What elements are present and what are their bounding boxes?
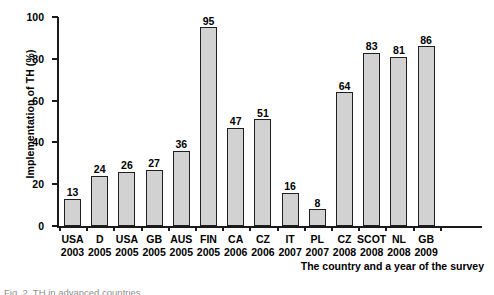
x-tick-mark	[59, 226, 61, 231]
x-tick-mark	[249, 226, 251, 231]
bar-value-label: 86	[420, 35, 432, 46]
x-tick-mark	[168, 226, 170, 231]
bar: 8	[309, 209, 326, 226]
x-tick-country: FIN	[200, 233, 217, 245]
x-tick-country: GB	[146, 233, 162, 245]
x-tick-mark	[331, 226, 333, 231]
x-tick-label: GB2009	[406, 233, 446, 258]
bar: 16	[282, 193, 299, 226]
bar-value-label: 27	[148, 158, 160, 169]
y-tick-mark: 60	[52, 100, 58, 102]
x-tick-country: CZ	[338, 233, 352, 245]
bar-chart-figure: Implementation of TH (%) 020406080100 13…	[0, 0, 494, 295]
x-tick-mark	[222, 226, 224, 231]
bar: 27	[146, 170, 163, 226]
bar: 47	[227, 128, 244, 226]
x-tick-mark	[113, 226, 115, 231]
bar-value-label: 24	[94, 164, 106, 175]
bar: 83	[363, 53, 380, 226]
bar-value-label: 81	[393, 45, 405, 56]
y-tick-mark: 0	[52, 225, 58, 227]
y-tick-label: 80	[32, 53, 44, 65]
x-tick-mark	[440, 226, 442, 231]
bar-value-label: 95	[203, 16, 215, 27]
bar: 86	[418, 46, 435, 226]
bar-value-label: 8	[314, 198, 320, 209]
x-tick-year: 2009	[406, 246, 446, 259]
bar: 13	[64, 199, 81, 226]
bar: 81	[390, 57, 407, 226]
y-tick-mark: 40	[52, 141, 58, 143]
bar-value-label: 13	[67, 187, 79, 198]
x-tick-mark	[195, 226, 197, 231]
x-tick-mark	[413, 226, 415, 231]
y-tick-label: 100	[26, 11, 44, 23]
x-tick-country: PL	[311, 233, 324, 245]
bar: 64	[336, 92, 353, 226]
plot-area: 020406080100 132426273695475116864838186	[57, 17, 482, 228]
x-tick-mark	[358, 226, 360, 231]
y-tick-mark: 100	[52, 16, 58, 18]
bar-value-label: 47	[230, 116, 242, 127]
bar-value-label: 64	[339, 81, 351, 92]
x-tick-country: GB	[418, 233, 434, 245]
y-tick-mark: 20	[52, 183, 58, 185]
x-tick-country: D	[96, 233, 104, 245]
bar-value-label: 36	[175, 139, 187, 150]
y-tick-mark: 80	[52, 58, 58, 60]
x-tick-country: CZ	[256, 233, 270, 245]
x-axis-line	[57, 226, 482, 228]
x-tick-country: IT	[285, 233, 294, 245]
bar-value-label: 83	[366, 41, 378, 52]
bar-value-label: 26	[121, 160, 133, 171]
bar-value-label: 16	[284, 181, 296, 192]
y-tick-label: 0	[38, 220, 44, 232]
bar-value-label: 51	[257, 108, 269, 119]
x-axis-title: The country and a year of the survey	[301, 260, 484, 272]
y-tick-label: 40	[32, 136, 44, 148]
y-tick-label: 20	[32, 178, 44, 190]
bar: 26	[118, 172, 135, 226]
x-tick-mark	[141, 226, 143, 231]
y-tick-label: 60	[32, 95, 44, 107]
x-tick-mark	[86, 226, 88, 231]
x-tick-mark	[385, 226, 387, 231]
x-tick-mark	[277, 226, 279, 231]
y-axis-line	[57, 17, 59, 228]
figure-caption: Fig. 2. TH in advanced countries	[4, 287, 141, 295]
bar: 51	[254, 119, 271, 226]
bar: 95	[200, 27, 217, 226]
x-tick-country: NL	[392, 233, 406, 245]
x-tick-country: CA	[228, 233, 243, 245]
x-tick-mark	[304, 226, 306, 231]
bar: 36	[173, 151, 190, 226]
bar: 24	[91, 176, 108, 226]
